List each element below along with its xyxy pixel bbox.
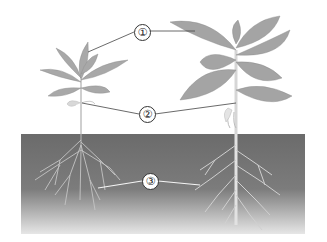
leader-line-2-left bbox=[82, 103, 139, 114]
plant-diagram: ① ② ③ bbox=[0, 0, 327, 242]
label-1: ① bbox=[134, 24, 151, 41]
label-3: ③ bbox=[142, 173, 159, 190]
leader-line-1-left bbox=[88, 32, 134, 52]
diagram-canvas bbox=[0, 0, 327, 242]
leader-line-2-right bbox=[155, 103, 236, 114]
right-plant-leaves bbox=[170, 16, 292, 102]
left-plant-leaves bbox=[40, 42, 128, 96]
label-2: ② bbox=[139, 106, 156, 123]
